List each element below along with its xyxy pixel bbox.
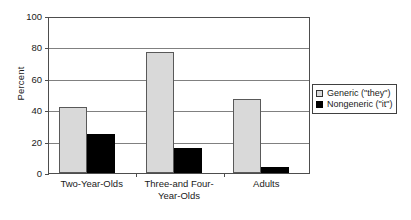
legend-label-generic: Generic ("they")	[327, 88, 390, 99]
y-tickmark-0	[45, 174, 49, 175]
x-label-line: Year-Olds	[135, 190, 222, 202]
x-label-line: Two-Year-Olds	[60, 178, 122, 189]
bar-nongeneric-2	[261, 167, 289, 173]
y-tick-label-80: 80	[18, 43, 42, 53]
legend-swatch-nongeneric-icon	[316, 101, 323, 108]
chart-legend: Generic ("they") Nongeneric ("it")	[312, 84, 397, 114]
x-label-0: Two-Year-Olds	[48, 178, 135, 190]
bar-generic-2	[233, 99, 261, 173]
plot-area	[48, 17, 310, 174]
y-tick-label-20: 20	[18, 138, 42, 148]
bar-generic-1	[146, 52, 174, 173]
y-tick-label-0: 0	[18, 169, 42, 179]
legend-label-nongeneric: Nongeneric ("it")	[327, 99, 392, 110]
y-axis-tick-labels: 020406080100	[18, 0, 42, 220]
bar-generic-0	[59, 107, 87, 173]
bar-nongeneric-0	[87, 134, 115, 173]
x-label-2: Adults	[223, 178, 310, 190]
y-tick-label-100: 100	[18, 12, 42, 22]
legend-item-generic: Generic ("they")	[316, 88, 392, 99]
legend-swatch-generic-icon	[316, 90, 323, 97]
bar-chart: Percent 020406080100 Two-Year-OldsThree-…	[0, 0, 411, 220]
x-label-line: Adults	[253, 178, 279, 189]
bar-nongeneric-1	[174, 148, 202, 173]
x-tickmark-1	[136, 173, 137, 177]
y-tick-label-60: 60	[18, 75, 42, 85]
y-tick-label-40: 40	[18, 106, 42, 116]
x-label-line: Three-and Four-	[144, 178, 213, 189]
x-axis-category-labels: Two-Year-OldsThree-and Four-Year-OldsAdu…	[48, 178, 310, 218]
legend-item-nongeneric: Nongeneric ("it")	[316, 99, 392, 110]
x-label-1: Three-and Four-Year-Olds	[135, 178, 222, 202]
bars-layer	[49, 17, 309, 173]
x-tickmark-2	[224, 173, 225, 177]
